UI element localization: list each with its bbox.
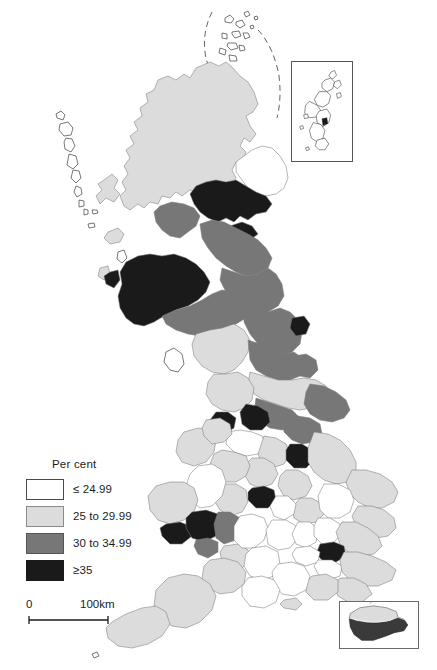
region-humberside	[304, 384, 350, 422]
region-west-sussex	[306, 574, 338, 600]
region-lothian	[200, 220, 272, 276]
region-gloucestershire	[234, 514, 268, 548]
legend-title: Per cent	[52, 458, 166, 470]
london-north-area	[349, 606, 398, 623]
region-dorset	[242, 576, 280, 608]
map-legend: Per cent ≤ 24.99 25 to 29.99 30 to 34.99…	[26, 458, 166, 584]
scalebar-labels: 0 100km	[26, 598, 156, 613]
region-scilly	[92, 652, 99, 658]
legend-label-0: ≤ 24.99	[73, 483, 112, 495]
region-isle-of-man	[164, 348, 184, 372]
legend-label-1: 25 to 29.99	[73, 510, 132, 522]
legend-label-3: ≥35	[73, 564, 92, 576]
inset-shetland-islands	[291, 61, 353, 162]
legend-item-2: 30 to 34.99	[26, 530, 166, 556]
region-warwickshire	[270, 496, 296, 520]
scalebar-graphic	[26, 615, 136, 627]
legend-item-0: ≤ 24.99	[26, 476, 166, 502]
region-mull	[104, 228, 124, 244]
legend-swatch-3	[26, 560, 64, 581]
legend-swatch-2	[26, 533, 64, 554]
inset-leader-line	[369, 602, 379, 604]
region-south-glamorgan	[194, 538, 218, 558]
region-coll	[92, 210, 98, 214]
legend-swatch-1	[26, 506, 64, 527]
region-western-isles	[56, 111, 88, 215]
legend-item-3: ≥35	[26, 557, 166, 583]
legend-label-2: 30 to 34.99	[73, 537, 132, 549]
region-central-scotland	[154, 202, 200, 238]
region-jura	[117, 250, 127, 263]
shetland-boundary-line	[258, 30, 280, 118]
region-skye	[96, 174, 120, 204]
inset-greater-london	[339, 601, 419, 649]
inset-shetland-map	[292, 62, 352, 161]
region-tiree	[88, 223, 95, 228]
legend-item-1: 25 to 29.99	[26, 503, 166, 529]
region-isle-of-wight	[280, 598, 302, 610]
region-norfolk	[346, 470, 398, 508]
region-orkney	[219, 11, 258, 61]
inset-london-map	[340, 602, 418, 648]
map-scalebar: 0 100km	[26, 598, 156, 631]
scalebar-label-zero: 0	[26, 598, 32, 610]
region-cambridgeshire	[318, 484, 354, 518]
legend-swatch-0	[26, 479, 64, 500]
choropleth-map-figure: .r { stroke:#7a7a7a; stroke-width:.55; }…	[0, 0, 437, 670]
scalebar-label-max: 100km	[80, 598, 115, 610]
region-leicestershire	[278, 470, 312, 500]
